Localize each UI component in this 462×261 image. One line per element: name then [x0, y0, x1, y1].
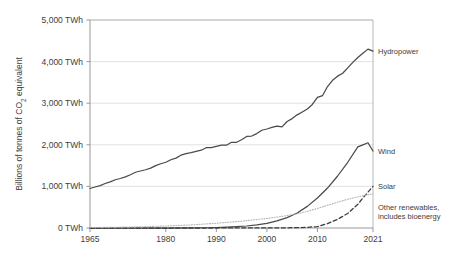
y-tick-label-5000: 5,000 TWh — [42, 15, 84, 25]
x-tick-label-2000: 2000 — [257, 234, 276, 244]
x-tick-label-1990: 1990 — [207, 234, 226, 244]
renewables-line-chart: 0 TWh1,000 TWh2,000 TWh3,000 TWh4,000 TW… — [0, 0, 462, 261]
series-line-wind — [90, 143, 373, 228]
y-tick-label-0: 0 TWh — [58, 223, 83, 233]
y-tick-label-2000: 2,000 TWh — [42, 140, 84, 150]
y-axis-title: Billions of tonnes of CO2 equivalent — [14, 57, 27, 191]
series-label-hydropower: Hydropower — [378, 47, 419, 56]
series-label-wind: Wind — [378, 147, 395, 156]
chart-container: 0 TWh1,000 TWh2,000 TWh3,000 TWh4,000 TW… — [0, 0, 462, 261]
y-tick-label-4000: 4,000 TWh — [42, 57, 84, 67]
x-tick-label-2021: 2021 — [364, 234, 383, 244]
y-tick-label-3000: 3,000 TWh — [42, 98, 84, 108]
series-label-other-renewables-line2: includes bioenergy — [378, 212, 441, 221]
series-label-solar: Solar — [378, 182, 396, 191]
x-tick-label-2010: 2010 — [308, 234, 327, 244]
y-tick-label-1000: 1,000 TWh — [42, 181, 84, 191]
x-tick-label-1965: 1965 — [81, 234, 100, 244]
y-axis-title-text: Billions of tonnes of CO2 equivalent — [14, 57, 27, 191]
series-line-hydropower — [90, 49, 373, 188]
series-label-other-renewables: Other renewables, — [378, 203, 439, 212]
x-tick-label-1980: 1980 — [156, 234, 175, 244]
